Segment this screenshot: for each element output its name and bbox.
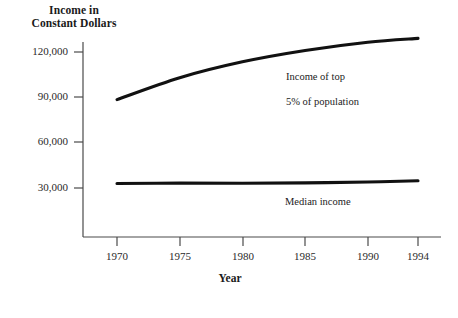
annotation-top-line-2: 5% of population	[286, 96, 359, 109]
y-tick-label-90000: 90,000	[6, 90, 68, 102]
annotation-median-income: Median income	[285, 183, 351, 221]
series-line-top-5-percent	[117, 38, 418, 99]
annotation-top-line-1: Income of top	[286, 71, 359, 84]
y-tick-label-30000: 30,000	[6, 181, 68, 193]
annotation-top-5-percent: Income of top 5% of population	[286, 58, 359, 121]
x-tick-label-1970: 1970	[94, 250, 140, 262]
series-line-median-income	[117, 181, 418, 184]
x-tick-label-1985: 1985	[282, 250, 328, 262]
income-line-chart: Income in Constant Dollars 120,000 90,00…	[0, 0, 458, 318]
x-tick-label-1994: 1994	[395, 250, 441, 262]
x-tick-label-1980: 1980	[220, 250, 266, 262]
annotation-median-line-1: Median income	[285, 196, 351, 209]
y-tick-label-60000: 60,000	[6, 135, 68, 147]
plot-area	[0, 0, 458, 318]
x-tick-label-1990: 1990	[345, 250, 391, 262]
y-tick-label-120000: 120,000	[6, 45, 68, 57]
x-axis-title: Year	[190, 272, 270, 284]
x-tick-label-1975: 1975	[157, 250, 203, 262]
